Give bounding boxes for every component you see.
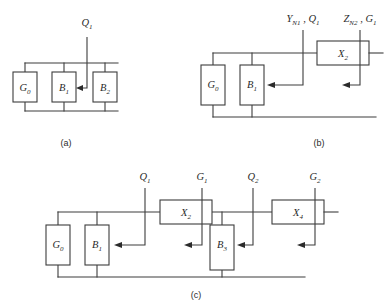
panel-c-g2-arrowhead: [297, 242, 305, 248]
panel-a-caption: (a): [61, 138, 72, 148]
panel-a-q1-arrowhead: [76, 85, 83, 91]
panel-c-q1-arrowhead: [114, 242, 122, 248]
panel-b-terminal-yn1-q1-label: YN1 , Q1: [287, 13, 320, 27]
panel-c-terminal-q1-label: Q1: [139, 171, 150, 185]
panel-c-q1-wire: [120, 188, 145, 245]
panel-c: G0 B1 X2 B3 X4: [0, 160, 386, 306]
panel-b-terminal-zn2-g1-label: ZN2 , G1: [344, 13, 377, 27]
panel-c-terminal-g1-label: G1: [196, 171, 207, 185]
panel-b-yn1-q1-wire: [273, 30, 303, 85]
panel-c-terminal-g2-label: G2: [309, 171, 321, 185]
panel-b: G0 B1 X2 YN1 , Q1 ZN2 , G1 (b): [193, 0, 386, 160]
panel-b-yn1-q1-arrowhead: [267, 82, 275, 88]
panel-a: G0 B1 B2 Q1 (a): [0, 0, 193, 160]
panel-c-q2-arrowhead: [237, 242, 245, 248]
panel-b-zn2-g1-arrowhead: [342, 82, 350, 88]
figure-container: G0 B1 B2 Q1 (a) G0: [0, 0, 386, 306]
panel-c-terminal-q2-label: Q2: [247, 171, 259, 185]
panel-a-terminal-q1-label: Q1: [81, 17, 92, 31]
panel-c-q2-wire: [243, 188, 253, 245]
panel-c-g1-arrowhead: [184, 242, 192, 248]
panel-c-caption: (c): [191, 290, 202, 300]
panel-b-caption: (b): [314, 138, 325, 148]
